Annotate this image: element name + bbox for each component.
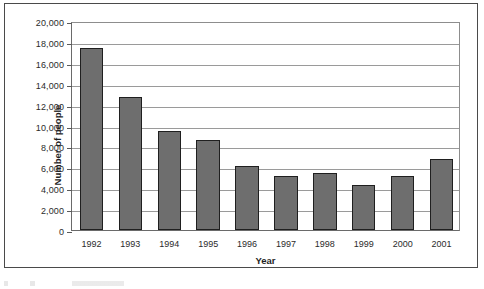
- x-axis-title: Year: [71, 255, 460, 266]
- gridline: [72, 44, 459, 45]
- x-axis-tick-label: 1995: [198, 239, 218, 249]
- y-axis-tick: [67, 148, 72, 149]
- y-axis-tick-label: 18,000: [36, 39, 64, 49]
- bar-chart-figure: Number of people 02,0004,0006,0008,00010…: [0, 0, 484, 289]
- y-axis-tick: [67, 211, 72, 212]
- y-axis-tick-label: 0: [59, 227, 64, 237]
- bar: [313, 173, 336, 230]
- bar: [158, 131, 181, 230]
- y-axis-tick-label: 16,000: [36, 60, 64, 70]
- bar: [196, 140, 219, 230]
- y-axis-tick: [67, 86, 72, 87]
- x-axis-tick-label: 1996: [237, 239, 257, 249]
- y-axis-tick-label: 12,000: [36, 102, 64, 112]
- x-axis-tick-label: 2001: [432, 239, 452, 249]
- y-axis-tick: [67, 65, 72, 66]
- bar: [391, 176, 414, 230]
- y-axis-tick-label: 4,000: [41, 185, 64, 195]
- y-axis-tick: [67, 128, 72, 129]
- x-axis-tick-label: 1994: [159, 239, 179, 249]
- y-axis-tick-label: 6,000: [41, 164, 64, 174]
- y-axis-tick: [67, 232, 72, 233]
- y-axis-tick-label: 20,000: [36, 18, 64, 28]
- y-axis-tick-label: 2,000: [41, 206, 64, 216]
- bar: [274, 176, 297, 230]
- bar: [430, 159, 453, 230]
- y-axis-tick: [67, 190, 72, 191]
- y-axis-tick-label: 14,000: [36, 81, 64, 91]
- x-axis-tick-label: 1999: [354, 239, 374, 249]
- x-axis-tick-label: 1992: [81, 239, 101, 249]
- x-axis-tick-label: 1998: [315, 239, 335, 249]
- plot-area: 02,0004,0006,0008,00010,00012,00014,0001…: [71, 22, 460, 231]
- y-axis-tick: [67, 44, 72, 45]
- bar: [235, 166, 258, 230]
- x-axis-tick-label: 2000: [393, 239, 413, 249]
- x-axis-tick-label: 1993: [120, 239, 140, 249]
- y-axis-tick: [67, 107, 72, 108]
- bar: [352, 185, 375, 230]
- y-axis-tick: [67, 169, 72, 170]
- gridline: [72, 86, 459, 87]
- x-axis-tick-label: 1997: [276, 239, 296, 249]
- scan-artifact: [4, 281, 184, 286]
- gridline: [72, 65, 459, 66]
- bar: [80, 48, 103, 230]
- y-axis-tick-label: 10,000: [36, 123, 64, 133]
- y-axis-tick-label: 8,000: [41, 143, 64, 153]
- bar: [119, 97, 142, 230]
- y-axis-tick: [67, 23, 72, 24]
